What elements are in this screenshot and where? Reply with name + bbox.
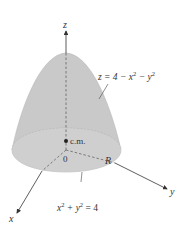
base-equation: x2 + y2 = 4 <box>56 201 98 213</box>
base-leader-line <box>81 172 82 182</box>
surface-equation: z = 4 − x2 − y2 <box>97 70 155 82</box>
y-axis <box>115 163 167 189</box>
region-label: R <box>104 155 111 166</box>
y-axis-label: y <box>169 186 175 197</box>
z-axis-label: z <box>62 19 67 30</box>
center-of-mass-label: c.m. <box>70 136 86 146</box>
x-axis-label: x <box>8 213 14 224</box>
origin-label: 0 <box>63 154 68 164</box>
paraboloid-diagram: z y x 0 z = 4 − x2 − y2 c.m. R x2 + y2 =… <box>0 0 196 228</box>
x-axis <box>17 171 42 213</box>
center-of-mass-dot <box>64 139 68 143</box>
